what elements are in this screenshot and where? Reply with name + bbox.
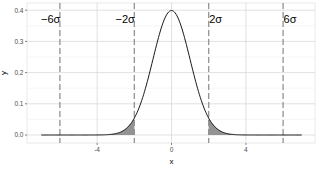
x-axis: -404 — [94, 143, 248, 153]
sigma-label: 6σ — [284, 13, 297, 25]
sigma-label: 2σ — [209, 13, 222, 25]
x-tick-label: 0 — [170, 146, 174, 153]
sigma-label: −6σ — [41, 13, 61, 25]
y-tick-label: 0.2 — [14, 69, 23, 76]
sigma-label: −2σ — [115, 13, 135, 25]
x-tick-label: -4 — [94, 146, 100, 153]
y-tick-label: 0.1 — [14, 100, 23, 107]
y-tick-label: 0.0 — [14, 131, 23, 138]
y-axis: 0.00.10.20.30.4 — [14, 7, 27, 139]
y-tick-label: 0.4 — [14, 7, 23, 14]
normal-distribution-chart: −6σ−2σ2σ6σ 0.00.10.20.30.4 -404 x y — [0, 0, 319, 170]
y-axis-title: y — [0, 71, 8, 75]
x-axis-title: x — [170, 157, 174, 166]
panel-background — [27, 3, 315, 143]
x-tick-label: 4 — [244, 146, 248, 153]
y-tick-label: 0.3 — [14, 38, 23, 45]
